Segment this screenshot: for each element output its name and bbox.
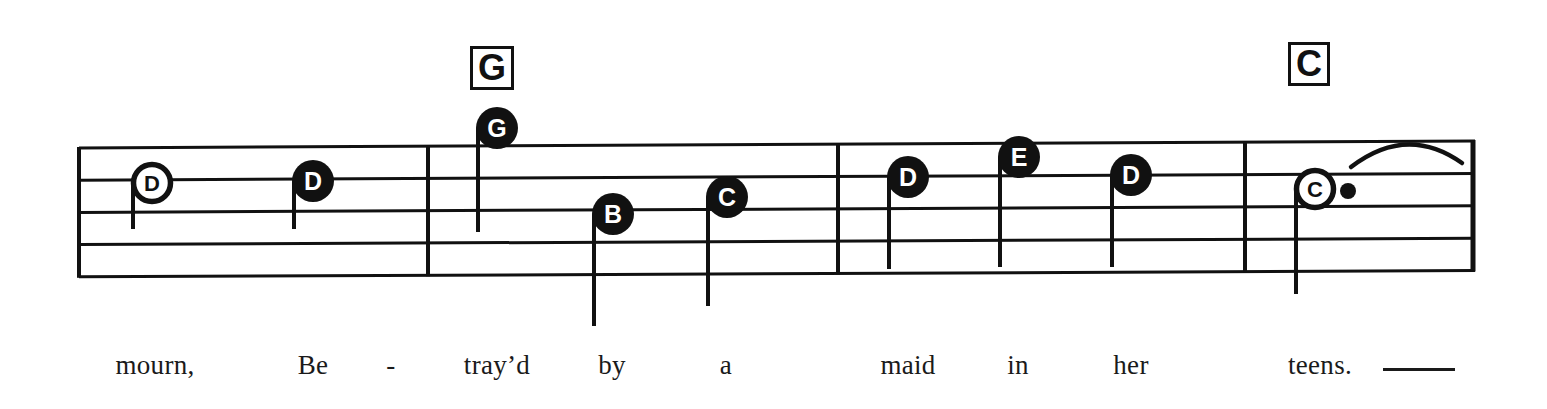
lyric-hyphen: - xyxy=(386,350,395,381)
melisma-extension-line xyxy=(1383,368,1455,371)
lyric-syllable: her xyxy=(1113,350,1148,381)
lyric-syllable: in xyxy=(1007,350,1029,381)
lyric-syllable: mourn, xyxy=(115,350,194,381)
lyric-syllable: a xyxy=(720,350,732,381)
lyric-syllable: maid xyxy=(880,350,935,381)
lyrics-layer: mourn,Be-tray’dbyamaidinherteens. xyxy=(0,0,1547,409)
lyric-syllable: Be xyxy=(298,350,329,381)
lyric-syllable: by xyxy=(598,350,626,381)
lyric-syllable: teens. xyxy=(1288,350,1352,381)
lyric-syllable: tray’d xyxy=(464,350,530,381)
sheet-music-page: DDGBCDEDC GC mourn,Be-tray’dbyamaidinher… xyxy=(0,0,1547,409)
